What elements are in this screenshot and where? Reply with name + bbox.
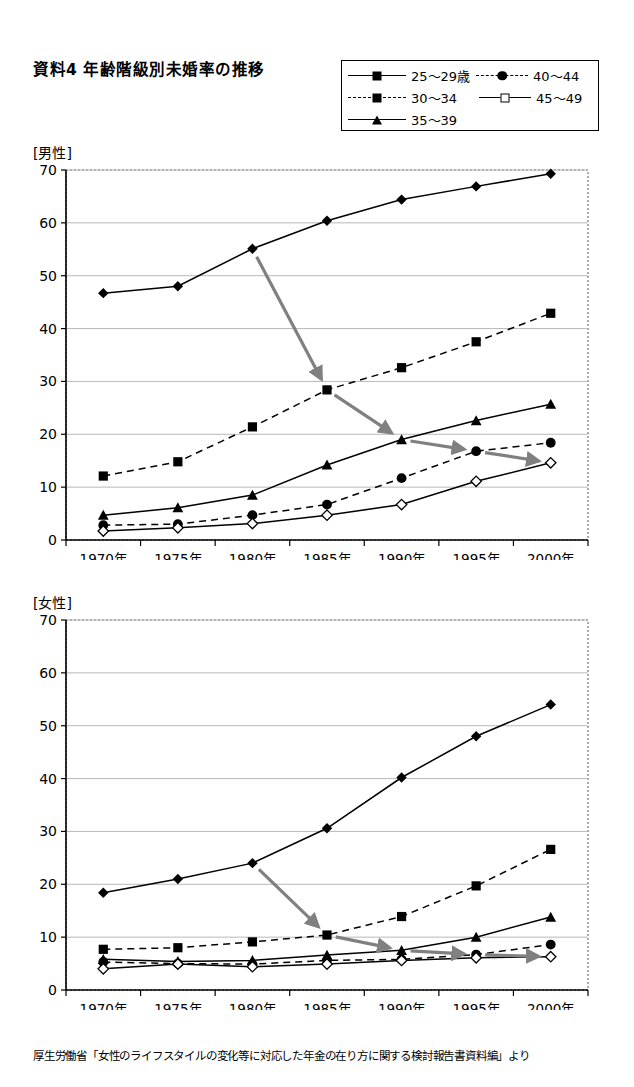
y-tick-label: 0 (48, 532, 57, 548)
y-tick-label: 50 (39, 718, 57, 734)
chart-male: 0102030405060701970年1975年1980年1985年1990年… (0, 160, 634, 560)
data-point-filled-square (248, 937, 257, 946)
legend-item-4: 35〜39 (348, 110, 457, 129)
x-tick-label: 1990年 (378, 1001, 425, 1010)
x-tick-label: 1990年 (378, 551, 425, 560)
data-point-filled-circle (397, 473, 407, 483)
panel-label-female: [女性] (33, 592, 72, 612)
data-point-filled-circle (471, 446, 481, 456)
x-tick-label: 1970年 (80, 1001, 127, 1010)
figure-page: 資料4 年齢階級別未婚率の推移 25〜29歳 40〜44 30〜34 (0, 0, 634, 1087)
y-tick-label: 60 (39, 665, 57, 681)
legend-label-4: 35〜39 (411, 110, 457, 129)
data-point-filled-circle (546, 940, 556, 950)
legend: 25〜29歳 40〜44 30〜34 45〜49 (341, 60, 599, 131)
data-point-filled-square (546, 845, 555, 854)
legend-label-1: 40〜44 (533, 66, 579, 85)
y-tick-label: 30 (39, 823, 57, 839)
y-tick-label: 50 (39, 268, 57, 284)
legend-swatch-filled-circle (476, 70, 528, 82)
data-point-filled-square (173, 943, 182, 952)
data-point-filled-square (322, 385, 331, 394)
legend-swatch-filled-square (348, 92, 406, 104)
y-tick-label: 40 (39, 321, 57, 337)
data-point-filled-square (546, 309, 555, 318)
data-point-filled-square (322, 930, 331, 939)
legend-swatch-filled-triangle (348, 114, 406, 126)
x-tick-label: 1995年 (452, 1001, 499, 1010)
y-tick-label: 10 (39, 479, 57, 495)
legend-label-2: 30〜34 (411, 88, 457, 107)
data-point-filled-square (99, 945, 108, 954)
y-tick-label: 70 (39, 612, 57, 628)
cohort-arrow (485, 955, 539, 957)
figure-title: 資料4 年齢階級別未婚率の推移 (33, 57, 265, 79)
y-tick-label: 40 (39, 771, 57, 787)
chart-female: 0102030405060701970年1975年1980年1985年1990年… (0, 610, 634, 1010)
x-tick-label: 1995年 (452, 551, 499, 560)
legend-item-0: 25〜29歳 (348, 66, 470, 85)
legend-item-2: 30〜34 (348, 88, 457, 107)
data-point-filled-square (397, 912, 406, 921)
data-point-filled-square (99, 471, 108, 480)
x-tick-label: 1975年 (154, 1001, 201, 1010)
legend-swatch-filled-diamond (348, 70, 406, 82)
legend-label-0: 25〜29歳 (411, 66, 470, 85)
data-point-filled-square (472, 337, 481, 346)
x-tick-label: 1980年 (229, 1001, 276, 1010)
legend-label-3: 45〜49 (536, 88, 582, 107)
x-tick-label: 2000年 (527, 1001, 574, 1010)
y-tick-label: 20 (39, 426, 57, 442)
data-point-filled-square (397, 363, 406, 372)
x-tick-label: 1985年 (303, 551, 350, 560)
y-tick-label: 30 (39, 373, 57, 389)
x-tick-label: 1970年 (80, 551, 127, 560)
legend-swatch-open-diamond (479, 92, 531, 104)
y-tick-label: 0 (48, 982, 57, 998)
data-point-filled-circle (546, 438, 556, 448)
y-tick-label: 20 (39, 876, 57, 892)
x-tick-label: 2000年 (527, 551, 574, 560)
y-tick-label: 60 (39, 215, 57, 231)
y-tick-label: 10 (39, 929, 57, 945)
data-point-filled-square (248, 422, 257, 431)
x-tick-label: 1980年 (229, 551, 276, 560)
data-point-filled-square (472, 881, 481, 890)
data-point-filled-circle (322, 500, 332, 510)
x-tick-label: 1985年 (303, 1001, 350, 1010)
legend-item-1: 40〜44 (476, 66, 579, 85)
x-tick-label: 1975年 (154, 551, 201, 560)
y-tick-label: 70 (39, 162, 57, 178)
data-point-filled-square (173, 457, 182, 466)
legend-item-3: 45〜49 (479, 88, 582, 107)
source-note: 厚生労働省「女性のライフスタイルの変化等に対応した年金の在り方に関する検討報告書… (33, 1047, 530, 1063)
panel-label-male: [男性] (33, 142, 72, 162)
